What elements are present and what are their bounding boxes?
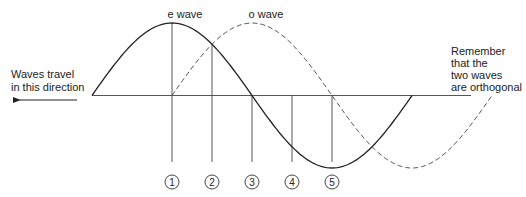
direction-label-line2: in this direction (11, 81, 84, 93)
guide-lines (172, 23, 332, 162)
marker-number: 2 (209, 177, 215, 188)
position-marker: 2 (205, 175, 219, 189)
marker-number: 5 (329, 177, 335, 188)
position-marker: 1 (165, 175, 179, 189)
position-marker: 4 (285, 175, 299, 189)
wave-diagram: e wave o wave Waves travel in this direc… (0, 0, 526, 197)
note-line4: are orthogonal (451, 81, 522, 93)
marker-number: 3 (249, 177, 255, 188)
position-marker: 3 (245, 175, 259, 189)
marker-number: 4 (289, 177, 295, 188)
note-line1: Remember (451, 45, 506, 57)
o-wave-label: o wave (249, 8, 284, 20)
position-marker: 5 (325, 175, 339, 189)
direction-label-line1: Waves travel (11, 68, 74, 80)
note-line3: two waves (451, 69, 503, 81)
marker-number: 1 (169, 177, 175, 188)
position-markers: 12345 (165, 175, 339, 189)
note-line2: that the (451, 57, 488, 69)
e-wave-label: e wave (168, 8, 203, 20)
